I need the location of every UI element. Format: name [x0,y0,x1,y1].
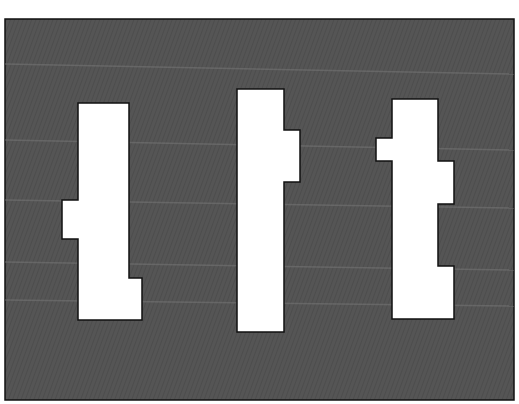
white-blocks [62,89,454,332]
scene-canvas [0,0,519,404]
